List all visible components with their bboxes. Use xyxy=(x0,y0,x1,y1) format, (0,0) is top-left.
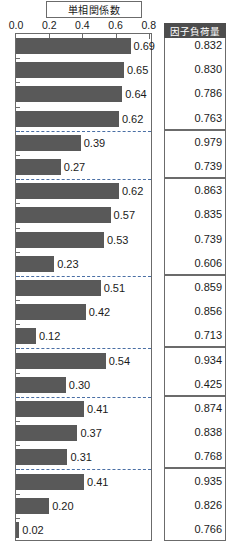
bar-row: 0.54 xyxy=(16,348,151,372)
correlation-bar xyxy=(16,111,119,127)
plot-area: 0.690.650.640.620.390.270.620.570.530.23… xyxy=(16,34,151,540)
category-axis-tick xyxy=(16,494,20,495)
factor-loading-cell: 0.874 xyxy=(164,400,222,416)
x-axis-tick-0.0: 0.0 xyxy=(9,19,24,31)
correlation-value-label: 0.12 xyxy=(39,328,60,344)
bar-row: 0.30 xyxy=(16,373,151,397)
correlation-bar xyxy=(16,207,111,223)
correlation-bar xyxy=(16,449,67,465)
category-axis-tick xyxy=(16,228,20,229)
correlation-value-label: 0.23 xyxy=(57,256,78,272)
correlation-value-label: 0.02 xyxy=(22,522,43,538)
bar-row: 0.64 xyxy=(16,82,151,106)
correlation-value-label: 0.57 xyxy=(114,207,135,223)
factor-loading-cell: 0.739 xyxy=(164,231,222,247)
correlation-bar xyxy=(16,304,86,320)
category-axis-tick xyxy=(16,252,20,253)
factor-loading-cell: 0.830 xyxy=(164,61,222,77)
bar-row: 0.12 xyxy=(16,324,151,348)
correlation-value-label: 0.41 xyxy=(87,401,108,417)
correlation-value-label: 0.31 xyxy=(70,449,91,465)
factor-loading-cell: 0.763 xyxy=(164,110,222,126)
bar-row: 0.69 xyxy=(16,34,151,58)
bar-row: 0.02 xyxy=(16,518,151,542)
correlation-bar xyxy=(16,232,104,248)
category-axis-tick xyxy=(16,421,20,422)
bar-row: 0.62 xyxy=(16,107,151,131)
correlation-bar xyxy=(16,280,101,296)
group-separator xyxy=(16,276,151,277)
category-axis-tick xyxy=(16,203,20,204)
bar-row: 0.27 xyxy=(16,155,151,179)
correlation-value-label: 0.65 xyxy=(127,62,148,78)
bar-row: 0.62 xyxy=(16,179,151,203)
factor-loading-cell: 0.713 xyxy=(164,327,222,343)
group-separator xyxy=(16,469,151,470)
bar-row: 0.57 xyxy=(16,203,151,227)
correlation-value-label: 0.30 xyxy=(69,377,90,393)
correlation-value-label: 0.62 xyxy=(122,183,143,199)
correlation-bar xyxy=(16,377,66,393)
correlation-value-label: 0.54 xyxy=(109,353,130,369)
correlation-value-label: 0.53 xyxy=(107,232,128,248)
factor-loading-table-header: 因子負荷量 xyxy=(164,23,226,38)
correlation-bar xyxy=(16,135,81,151)
category-axis-tick xyxy=(16,155,20,156)
category-axis-tick xyxy=(16,107,20,108)
factor-loading-cell: 0.835 xyxy=(164,206,222,222)
bar-row: 0.20 xyxy=(16,494,151,518)
bar-row: 0.39 xyxy=(16,131,151,155)
correlation-value-label: 0.37 xyxy=(80,425,101,441)
correlation-bar xyxy=(16,425,77,441)
correlation-bar xyxy=(16,353,106,369)
factor-loading-cell: 0.856 xyxy=(164,303,222,319)
correlation-bar xyxy=(16,159,61,175)
correlation-bar xyxy=(16,62,124,78)
category-axis-tick xyxy=(16,58,20,59)
correlation-value-label: 0.27 xyxy=(64,159,85,175)
factor-loading-cell: 0.838 xyxy=(164,424,222,440)
bar-row: 0.37 xyxy=(16,421,151,445)
category-axis-tick xyxy=(16,324,20,325)
factor-loading-cell: 0.768 xyxy=(164,448,222,464)
group-separator xyxy=(16,397,151,398)
factor-loading-header-label: 因子負荷量 xyxy=(170,24,221,38)
correlation-value-label: 0.20 xyxy=(52,498,73,514)
category-axis-tick xyxy=(16,518,20,519)
bar-row: 0.31 xyxy=(16,445,151,469)
factor-loading-cell: 0.766 xyxy=(164,521,222,537)
correlation-value-label: 0.41 xyxy=(87,474,108,490)
factor-loading-cell: 0.979 xyxy=(164,134,222,150)
correlation-value-label: 0.64 xyxy=(125,86,146,102)
correlation-bar xyxy=(16,86,122,102)
correlation-bar xyxy=(16,474,84,490)
correlation-bar xyxy=(16,183,119,199)
group-separator xyxy=(16,131,151,132)
bar-row: 0.23 xyxy=(16,252,151,276)
x-axis-tick-0.4: 0.4 xyxy=(75,19,90,31)
correlation-value-label: 0.39 xyxy=(84,135,105,151)
x-axis-tick-0.6: 0.6 xyxy=(108,19,123,31)
group-separator xyxy=(16,179,151,180)
factor-loading-cell: 0.826 xyxy=(164,497,222,513)
x-axis-tick-0.8: 0.8 xyxy=(141,19,156,31)
correlation-bar-chart: 0.690.650.640.620.390.270.620.570.530.23… xyxy=(15,33,152,541)
category-axis-tick xyxy=(16,445,20,446)
correlation-value-label: 0.42 xyxy=(89,304,110,320)
factor-loading-cell: 0.786 xyxy=(164,85,222,101)
category-axis-tick xyxy=(16,82,20,83)
group-separator xyxy=(16,348,151,349)
category-axis-tick xyxy=(16,373,20,374)
x-axis-tick-0.2: 0.2 xyxy=(42,19,57,31)
correlation-value-label: 0.51 xyxy=(104,280,125,296)
x-axis-tick-labels: 0.00.20.40.60.8 xyxy=(0,19,175,33)
factor-loading-cell: 0.863 xyxy=(164,182,222,198)
correlation-bar xyxy=(16,522,19,538)
chart-title: 単相関係数 xyxy=(68,2,120,17)
factor-loading-cell: 0.935 xyxy=(164,473,222,489)
correlation-value-label: 0.69 xyxy=(134,38,155,54)
bar-row: 0.53 xyxy=(16,228,151,252)
factor-loading-cell: 0.606 xyxy=(164,255,222,271)
factor-loading-cell: 0.739 xyxy=(164,158,222,174)
correlation-bar xyxy=(16,38,131,54)
